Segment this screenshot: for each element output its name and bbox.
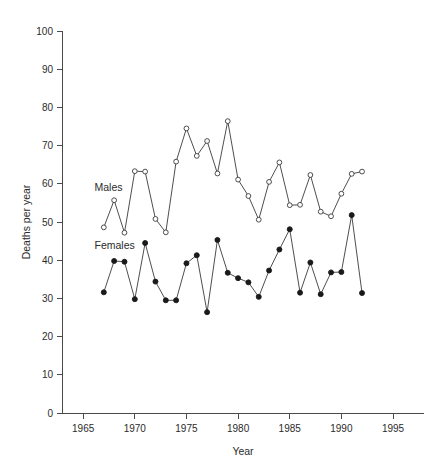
y-tick-label-10: 10: [42, 369, 54, 380]
deaths-per-year-line-chart: 0102030405060708090100 19651970197519801…: [0, 0, 429, 469]
y-tick-group: 0102030405060708090100: [36, 26, 62, 419]
data-point-females-1978: [215, 237, 220, 242]
y-tick-label-0: 0: [47, 408, 53, 419]
data-point-males-1992: [360, 169, 365, 174]
data-point-females-1984: [277, 247, 282, 252]
data-point-females-1990: [339, 270, 344, 275]
data-point-males-1971: [143, 169, 148, 174]
data-point-males-1975: [184, 126, 189, 131]
data-point-males-1982: [256, 217, 261, 222]
data-point-females-1968: [112, 258, 117, 263]
data-point-males-1967: [101, 225, 106, 230]
data-point-females-1988: [318, 292, 323, 297]
series-label-females: Females: [95, 239, 135, 251]
x-tick-label-1970: 1970: [124, 423, 147, 434]
y-tick-label-70: 70: [42, 140, 54, 151]
data-point-females-1977: [205, 310, 210, 315]
data-point-males-1972: [153, 217, 158, 222]
data-point-males-1986: [298, 202, 303, 207]
data-point-females-1991: [349, 213, 354, 218]
data-point-females-1976: [194, 253, 199, 258]
series-females: [101, 213, 364, 315]
data-point-males-1973: [163, 230, 168, 235]
data-point-males-1984: [277, 160, 282, 165]
data-point-females-1979: [225, 270, 230, 275]
x-tick-label-1980: 1980: [227, 423, 250, 434]
data-point-males-1974: [174, 159, 179, 164]
x-axis-title: Year: [232, 445, 254, 457]
data-point-males-1969: [122, 230, 127, 235]
y-axis: 0102030405060708090100: [36, 26, 62, 419]
data-point-males-1985: [287, 203, 292, 208]
data-point-females-1985: [287, 227, 292, 232]
data-point-males-1976: [194, 154, 199, 159]
y-tick-label-50: 50: [42, 217, 54, 228]
data-point-females-1973: [163, 298, 168, 303]
data-point-males-1989: [329, 214, 334, 219]
x-tick-label-1995: 1995: [382, 423, 405, 434]
data-point-males-1987: [308, 173, 313, 178]
x-tick-group: 1965197019751980198519901995: [72, 413, 405, 434]
data-point-females-1972: [153, 279, 158, 284]
data-point-females-1971: [143, 241, 148, 246]
x-tick-label-1975: 1975: [175, 423, 198, 434]
data-point-females-1986: [298, 290, 303, 295]
x-tick-label-1985: 1985: [279, 423, 302, 434]
data-point-males-1980: [236, 177, 241, 182]
y-tick-label-100: 100: [36, 26, 53, 37]
y-tick-label-30: 30: [42, 293, 54, 304]
y-tick-label-80: 80: [42, 102, 54, 113]
data-point-males-1988: [318, 209, 323, 214]
y-axis-title: Deaths per year: [20, 184, 32, 259]
data-point-females-1969: [122, 259, 127, 264]
series-line-males: [104, 121, 362, 233]
data-point-females-1992: [360, 291, 365, 296]
data-point-females-1987: [308, 260, 313, 265]
data-point-females-1970: [132, 297, 137, 302]
data-point-males-1970: [132, 169, 137, 174]
x-axis: 1965197019751980198519901995: [63, 413, 425, 434]
x-tick-label-1990: 1990: [330, 423, 353, 434]
series-line-females: [104, 215, 362, 312]
series-label-males: Males: [95, 181, 123, 193]
data-point-females-1974: [174, 298, 179, 303]
data-point-males-1978: [215, 171, 220, 176]
y-tick-label-20: 20: [42, 331, 54, 342]
data-point-males-1977: [205, 139, 210, 144]
data-point-males-1981: [246, 194, 251, 199]
data-point-females-1981: [246, 280, 251, 285]
series-males: [101, 119, 364, 235]
data-point-females-1975: [184, 261, 189, 266]
data-point-males-1979: [225, 119, 230, 124]
annotation-layer: MalesFemales: [95, 181, 135, 250]
data-point-females-1967: [101, 290, 106, 295]
data-point-males-1991: [349, 171, 354, 176]
data-point-females-1983: [267, 268, 272, 273]
y-tick-label-90: 90: [42, 64, 54, 75]
x-tick-label-1965: 1965: [72, 423, 95, 434]
chart-container: 0102030405060708090100 19651970197519801…: [0, 0, 429, 469]
y-tick-label-60: 60: [42, 178, 54, 189]
y-tick-label-40: 40: [42, 255, 54, 266]
data-point-females-1982: [256, 294, 261, 299]
data-point-males-1983: [267, 179, 272, 184]
data-point-females-1980: [236, 276, 241, 281]
series-layer: [101, 119, 364, 315]
data-point-females-1989: [329, 270, 334, 275]
data-point-males-1990: [339, 191, 344, 196]
data-point-males-1968: [112, 198, 117, 203]
